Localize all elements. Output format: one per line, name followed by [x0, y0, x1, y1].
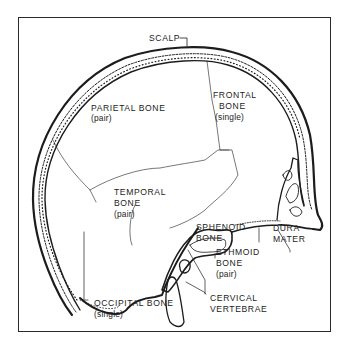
skull-outer-contour [33, 47, 322, 315]
label-temporal-line2: BONE [114, 198, 141, 208]
label-occipital-bone: OCCIPITAL BONE [94, 298, 174, 308]
label-frontal-line2: BONE [219, 101, 246, 111]
label-sphenoid-line2: BONE [196, 233, 223, 243]
ethmoid-piece [180, 260, 191, 273]
label-frontal-note: (single) [215, 112, 244, 122]
label-dura-line1: DURA [273, 223, 300, 233]
label-scalp: SCALP [149, 33, 180, 43]
label-parietal-bone: PARIETAL BONE [91, 103, 166, 113]
label-occipital-note: (single) [94, 309, 123, 319]
label-ethmoid-line1: ETHMOID [216, 247, 260, 257]
label-temporal-note: (pair) [114, 209, 135, 219]
lambdoid-suture [53, 140, 96, 202]
label-dura-line2: MATER [273, 234, 305, 244]
cervical-leader [186, 282, 206, 294]
scalp-leader [180, 38, 187, 46]
label-sphenoid-line1: SPHENOID [196, 222, 246, 232]
label-parietal-note: (pair) [91, 113, 112, 123]
label-cervical-line1: CERVICAL [210, 293, 258, 303]
label-ethmoid-note: (pair) [216, 269, 237, 279]
label-temporal-line1: TEMPORAL [114, 187, 166, 197]
skull-section-drawing [0, 0, 347, 348]
label-cervical-line2: VERTEBRAE [210, 304, 267, 314]
label-ethmoid-line2: BONE [216, 258, 243, 268]
label-frontal-line1: FRONTAL [213, 90, 257, 100]
occipital-leader [84, 232, 88, 300]
